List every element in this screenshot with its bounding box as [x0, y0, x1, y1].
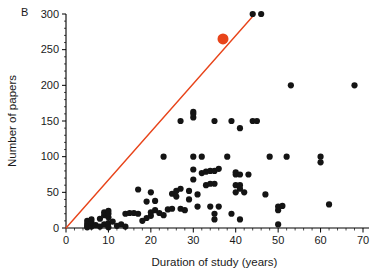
data-point: [279, 203, 285, 209]
x-tick-label: 60: [314, 234, 326, 246]
data-point: [88, 216, 94, 222]
x-tick-label: 30: [187, 234, 199, 246]
data-point: [262, 191, 268, 197]
x-tick-label: 40: [230, 234, 242, 246]
data-point: [326, 201, 332, 207]
y-tick-label: 150: [41, 115, 59, 127]
data-point: [228, 118, 234, 124]
data-point: [105, 208, 111, 214]
y-tick-label: 200: [41, 79, 59, 91]
data-point: [190, 176, 196, 182]
data-point: [194, 204, 200, 210]
data-point: [211, 118, 217, 124]
data-point: [237, 171, 243, 177]
data-point: [245, 171, 251, 177]
x-tick-label: 20: [145, 234, 157, 246]
data-point: [241, 189, 247, 195]
data-point: [237, 216, 243, 222]
data-point: [254, 118, 260, 124]
data-point: [317, 154, 323, 160]
data-point: [224, 154, 230, 160]
data-point: [177, 118, 183, 124]
data-point: [122, 223, 128, 229]
data-point: [194, 191, 200, 197]
x-tick-label: 70: [357, 234, 369, 246]
data-point: [169, 206, 175, 212]
plot-canvas: 050100150200250300010203040506070Duratio…: [0, 0, 383, 271]
data-point: [199, 154, 205, 160]
x-tick-label: 10: [102, 234, 114, 246]
data-point: [317, 159, 323, 165]
data-point: [160, 212, 166, 218]
data-point: [258, 11, 264, 17]
y-axis-title: Number of papers: [6, 75, 18, 167]
reference-line-segment: [66, 14, 255, 228]
data-point: [105, 224, 111, 230]
data-point: [207, 204, 213, 210]
y-tick-label: 300: [41, 8, 59, 20]
highlighted-data-point: [217, 33, 228, 44]
data-point: [288, 82, 294, 88]
scatter-plot-figure: B 050100150200250300010203040506070Durat…: [0, 0, 383, 271]
y-tick-label: 0: [53, 222, 59, 234]
data-point: [351, 82, 357, 88]
data-point: [186, 196, 192, 202]
x-tick-label: 0: [63, 234, 69, 246]
data-point: [135, 211, 141, 217]
reference-line: [66, 14, 255, 228]
data-point: [216, 166, 222, 172]
x-tick-label: 50: [272, 234, 284, 246]
axis-labels-group: 050100150200250300010203040506070Duratio…: [6, 8, 369, 268]
data-point: [152, 198, 158, 204]
data-point: [135, 186, 141, 192]
highlight-point: [217, 33, 228, 44]
data-point: [211, 216, 217, 222]
data-point: [144, 199, 150, 205]
data-point: [173, 194, 179, 200]
data-point: [186, 188, 192, 194]
y-tick-label: 250: [41, 43, 59, 55]
data-point: [250, 11, 256, 17]
data-point: [211, 211, 217, 217]
x-axis-title: Duration of study (years): [152, 256, 278, 268]
data-point: [267, 154, 273, 160]
data-point: [237, 125, 243, 131]
data-point: [275, 221, 281, 227]
data-point: [190, 154, 196, 160]
data-point: [177, 186, 183, 192]
data-point: [228, 211, 234, 217]
data-point: [216, 204, 222, 210]
y-tick-label: 50: [47, 186, 59, 198]
data-point: [284, 154, 290, 160]
data-point: [190, 109, 196, 115]
data-point: [160, 154, 166, 160]
data-point: [182, 207, 188, 213]
data-point: [237, 182, 243, 188]
y-tick-label: 100: [41, 150, 59, 162]
data-point: [190, 166, 196, 172]
data-point: [148, 189, 154, 195]
data-point: [211, 181, 217, 187]
